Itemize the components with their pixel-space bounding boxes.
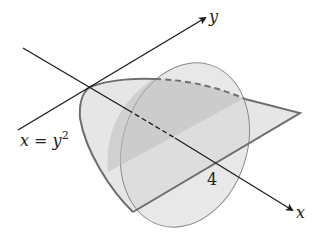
diagram-canvas: y x 4 x = y2 — [0, 0, 317, 245]
x-intercept-label: 4 — [207, 170, 217, 189]
y-axis-label: y — [208, 7, 219, 26]
x-axis-front — [23, 48, 128, 110]
x-axis-label: x — [296, 203, 305, 222]
equation-label: x = y2 — [20, 129, 69, 150]
